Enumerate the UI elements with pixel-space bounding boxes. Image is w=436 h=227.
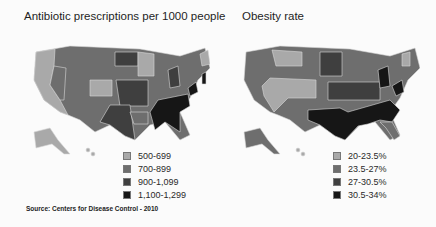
- legend-item: 30.5-34%: [333, 188, 387, 201]
- left-us-choropleth-map: [30, 40, 210, 160]
- swatch-level-2: [123, 165, 131, 173]
- legend-item: 900-1,099: [123, 175, 186, 188]
- legend-label: 20-23.5%: [348, 151, 387, 161]
- legend-item: 20-23.5%: [333, 149, 387, 162]
- legend-item: 700-899: [123, 162, 186, 175]
- legend-label: 500-699: [138, 151, 171, 161]
- legend-label: 23.5-27%: [348, 164, 387, 174]
- left-legend: 500-699 700-899 900-1,099 1,100-1,299: [123, 149, 186, 201]
- swatch-level-4: [123, 191, 131, 199]
- left-chart-title: Antibiotic prescriptions per 1000 people: [24, 10, 225, 22]
- swatch-level-4: [333, 191, 341, 199]
- legend-item: 500-699: [123, 149, 186, 162]
- legend-item: 27-30.5%: [333, 175, 387, 188]
- legend-label: 30.5-34%: [348, 190, 387, 200]
- legend-label: 27-30.5%: [348, 177, 387, 187]
- legend-label: 900-1,099: [138, 177, 179, 187]
- legend-label: 1,100-1,299: [138, 190, 186, 200]
- source-note: Source: Centers for Disease Control - 20…: [26, 205, 158, 212]
- legend-item: 23.5-27%: [333, 162, 387, 175]
- legend-item: 1,100-1,299: [123, 188, 186, 201]
- swatch-level-3: [333, 178, 341, 186]
- swatch-level-1: [123, 152, 131, 160]
- swatch-level-3: [123, 178, 131, 186]
- right-legend: 20-23.5% 23.5-27% 27-30.5% 30.5-34%: [333, 149, 387, 201]
- swatch-level-1: [333, 152, 341, 160]
- right-chart-title: Obesity rate: [242, 10, 304, 22]
- right-us-choropleth-map: [240, 40, 420, 160]
- legend-label: 700-899: [138, 164, 171, 174]
- swatch-level-2: [333, 165, 341, 173]
